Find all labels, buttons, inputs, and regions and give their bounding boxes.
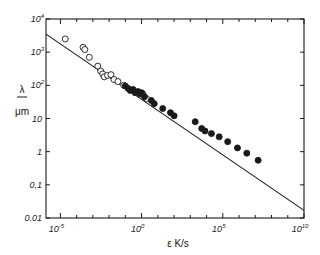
filled-data-point [202,128,208,134]
y-tick-label: 0,1 [29,180,42,190]
y-tick-label: 104 [31,13,45,24]
filled-data-point [244,150,250,156]
filled-data-point [234,145,240,151]
y-axis-ticks: 1041031021010,10.01 [24,13,304,223]
fit-line-segment [46,34,304,210]
open-data-point [86,54,92,60]
y-tick-label: 10 [32,114,42,124]
filled-data-point [171,113,177,119]
x-tick-label: 105 [212,223,226,234]
y-tick-label: 103 [31,46,45,57]
filled-data-point [255,157,261,163]
y-tick-label: 102 [31,79,45,90]
x-tick-label: 1010 [292,223,309,234]
data-points [62,36,261,163]
filled-data-point [225,139,231,145]
filled-data-point [151,101,157,107]
x-axis-label: ε K/s [167,238,189,249]
open-data-point [115,79,121,85]
y-tick-label: 1 [37,147,42,157]
filled-data-point [160,106,166,112]
y-axis-label-lambda: λ [20,84,25,95]
filled-data-point [192,119,198,125]
y-tick-label: 0.01 [24,213,42,223]
fit-line [46,34,304,210]
x-tick-label: 10-5 [49,223,65,234]
y-axis-label-unit: μm [15,106,29,117]
chart: 10-51001051010 1041031021010,10.01 λμmε … [0,0,320,255]
filled-data-point [216,134,222,140]
filled-data-point [141,94,147,100]
x-tick-label: 100 [131,223,145,234]
open-data-point [62,36,68,42]
open-data-point [82,47,88,53]
filled-data-point [208,131,214,137]
